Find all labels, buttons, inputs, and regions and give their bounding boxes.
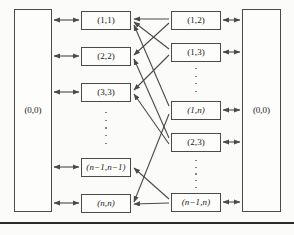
node-label: (2,3) <box>187 138 205 147</box>
left-panel-label: (0,0) <box>24 106 41 115</box>
node-label: (1,1) <box>97 16 115 25</box>
dot <box>105 135 106 136</box>
ellipsis-right-column-upper <box>194 68 198 92</box>
dot <box>195 160 196 161</box>
connector-n1n-to-nn <box>134 203 169 204</box>
dot <box>105 143 106 144</box>
node-1-3[interactable]: (1,3) <box>171 43 221 62</box>
node-3-3[interactable]: (3,3) <box>81 83 131 102</box>
right-panel-node[interactable]: (0,0) <box>242 9 281 212</box>
node-nminus1-n[interactable]: (n−1,n) <box>171 193 221 212</box>
connector-1n-to-11 <box>134 25 169 106</box>
node-label: (1,2) <box>187 16 205 25</box>
node-label: (n,n) <box>97 199 115 208</box>
dot <box>105 127 106 128</box>
cross-connectors <box>134 19 169 204</box>
node-label: (n−1,n−1) <box>86 163 125 172</box>
dot <box>195 167 196 168</box>
connector-12-to-22 <box>134 23 169 55</box>
node-label: (n−1,n) <box>182 198 211 207</box>
connector-13-to-33 <box>134 55 169 90</box>
dot <box>195 68 196 69</box>
node-2-3[interactable]: (2,3) <box>171 133 221 152</box>
dot <box>195 180 196 181</box>
dot <box>105 112 106 113</box>
connector-23-to-33 <box>134 94 169 144</box>
node-1-2[interactable]: (1,2) <box>171 11 221 30</box>
left-panel-node[interactable]: (0,0) <box>14 9 52 212</box>
connector-23-to-22 <box>134 59 169 138</box>
dot <box>195 187 196 188</box>
node-nminus1-nminus1[interactable]: (n−1,n−1) <box>81 158 131 177</box>
left-panel-connectors <box>54 20 79 203</box>
node-label: (2,2) <box>97 52 115 61</box>
node-n-n[interactable]: (n,n) <box>81 194 131 213</box>
right-panel-connectors <box>223 20 240 202</box>
connector-n1n-to-n1n1 <box>134 168 169 199</box>
right-panel-label: (0,0) <box>253 106 270 115</box>
dot <box>195 91 196 92</box>
dot <box>195 173 196 174</box>
node-label: (1,3) <box>187 48 205 57</box>
connector-13-to-11 <box>134 22 169 49</box>
node-1-n[interactable]: (1,n) <box>171 101 221 120</box>
ellipsis-right-column-lower <box>194 160 198 188</box>
node-2-2[interactable]: (2,2) <box>81 47 131 66</box>
bottom-divider <box>0 222 294 224</box>
node-1-1[interactable]: (1,1) <box>81 11 131 30</box>
dot <box>195 76 196 77</box>
node-label: (3,3) <box>97 88 115 97</box>
node-label: (1,n) <box>187 106 205 115</box>
figure-canvas: (0,0) (0,0) (1,1) (2,2) (3,3) (n−1,n−1) … <box>0 0 294 235</box>
dot <box>195 83 196 84</box>
dot <box>105 120 106 121</box>
ellipsis-left-column <box>104 112 108 144</box>
